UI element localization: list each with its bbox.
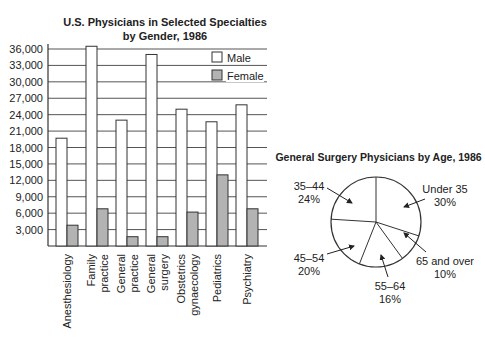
legend-label: Female — [227, 70, 264, 82]
x-category-label: surgery — [158, 254, 170, 291]
bar-female — [97, 209, 108, 246]
bar-male — [236, 105, 247, 246]
bar-female — [127, 237, 138, 246]
x-category-label: Obstetrics — [175, 254, 187, 304]
legend-swatch-female — [212, 70, 222, 80]
y-tick-label: 9,000 — [15, 191, 43, 203]
y-tick-label: 24,000 — [9, 109, 43, 121]
bar-female — [157, 237, 168, 246]
bar-female — [67, 225, 78, 246]
y-tick-label: 36,000 — [9, 43, 43, 55]
bar-chart: 3,0006,0009,00012,00015,00018,00021,0002… — [9, 43, 267, 329]
y-tick-label: 3,000 — [15, 224, 43, 236]
pie-slice-percent: 16% — [379, 293, 401, 305]
y-tick-label: 6,000 — [15, 207, 43, 219]
legend-swatch-male — [212, 52, 222, 62]
legend: MaleFemale — [211, 50, 264, 82]
y-tick-label: 33,000 — [9, 59, 43, 71]
pie-slice-label: 55–64 — [375, 280, 406, 292]
x-category-label: General — [115, 254, 127, 293]
bar-female — [217, 175, 228, 246]
bar-male — [176, 109, 187, 246]
pie-slice-percent: 30% — [434, 196, 456, 208]
bar-male — [146, 54, 157, 246]
pie-slice-percent: 20% — [298, 265, 320, 277]
y-tick-label: 21,000 — [9, 125, 43, 137]
charts-canvas: 3,0006,0009,00012,00015,00018,00021,0002… — [0, 0, 485, 337]
x-category-label: Psychiatry — [241, 254, 253, 305]
x-category-label: General — [145, 254, 157, 293]
y-tick-label: 30,000 — [9, 76, 43, 88]
legend-label: Male — [227, 52, 251, 64]
pie-slice-label: Under 35 — [422, 183, 467, 195]
y-tick-label: 12,000 — [9, 174, 43, 186]
x-category-label: practice — [98, 254, 110, 293]
y-tick-label: 27,000 — [9, 92, 43, 104]
x-category-label: gynaecology — [188, 254, 200, 316]
pie-slice-label: 45–54 — [294, 252, 325, 264]
pie-chart: Under 3530%65 and over10%55–6416%45–5420… — [294, 177, 475, 305]
x-category-label: Family — [85, 254, 97, 287]
x-category-label: Pediatrics — [211, 254, 223, 303]
x-category-label: practice — [128, 254, 140, 293]
pie-slice-label: 35–44 — [294, 180, 325, 192]
bar-male — [56, 138, 67, 246]
pie-slice-label: 65 and over — [416, 255, 474, 267]
bar-female — [247, 209, 258, 246]
bar-male — [116, 120, 127, 246]
bar-female — [187, 212, 198, 246]
y-tick-label: 15,000 — [9, 158, 43, 170]
bar-male — [206, 122, 217, 246]
pie-slice-percent: 10% — [434, 268, 456, 280]
pie-slice-percent: 24% — [298, 193, 320, 205]
y-tick-label: 18,000 — [9, 142, 43, 154]
x-category-label: Anesthesiology — [61, 254, 73, 329]
bar-male — [86, 46, 97, 246]
